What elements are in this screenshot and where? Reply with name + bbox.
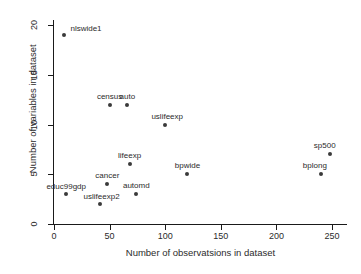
y-tick-mark — [48, 75, 53, 76]
data-point-label: automd — [123, 182, 150, 190]
y-tick-mark — [48, 125, 53, 126]
y-tick-label: 0 — [22, 219, 46, 229]
x-tick-label: 200 — [259, 232, 293, 241]
data-point-label: bpwide — [175, 162, 200, 170]
y-tick-mark — [48, 174, 53, 175]
x-tick-label: 250 — [315, 232, 349, 241]
data-point-label: educ99gdp — [46, 183, 86, 191]
x-tick-label: 100 — [148, 232, 182, 241]
data-point-label: sp500 — [314, 142, 336, 150]
data-point-marker[interactable] — [108, 103, 112, 107]
data-point-marker[interactable] — [163, 123, 167, 127]
x-tick-label: 150 — [204, 232, 238, 241]
data-point-label: uslifeexp2 — [84, 193, 120, 201]
data-point-label: nlswide1 — [70, 25, 101, 33]
data-point-label: cancer — [95, 172, 119, 180]
x-axis-title: Number of observatsions in dataset — [54, 248, 347, 258]
data-point-label: census — [97, 93, 122, 101]
y-axis-title: Number of variables in dataset — [28, 14, 38, 204]
x-tick-mark — [221, 225, 222, 230]
data-point-label: auto — [120, 93, 136, 101]
data-point-marker[interactable] — [98, 202, 102, 206]
x-tick-mark — [332, 225, 333, 230]
data-point-label: uslifeexp — [151, 113, 183, 121]
x-tick-label: 50 — [93, 232, 127, 241]
scatter-plot-figure: 05101520 050100150200250 Number of varia… — [0, 0, 361, 274]
y-tick-mark — [48, 25, 53, 26]
data-point-marker[interactable] — [62, 33, 66, 37]
data-point-label: lifeexp — [118, 152, 141, 160]
data-point-marker[interactable] — [128, 162, 132, 166]
data-point-label: bplong — [303, 162, 327, 170]
x-tick-mark — [276, 225, 277, 230]
x-axis-line — [53, 224, 347, 225]
x-tick-mark — [110, 225, 111, 230]
y-tick-mark — [48, 224, 53, 225]
x-tick-mark — [165, 225, 166, 230]
x-tick-label: 0 — [37, 232, 71, 241]
x-tick-mark — [54, 225, 55, 230]
